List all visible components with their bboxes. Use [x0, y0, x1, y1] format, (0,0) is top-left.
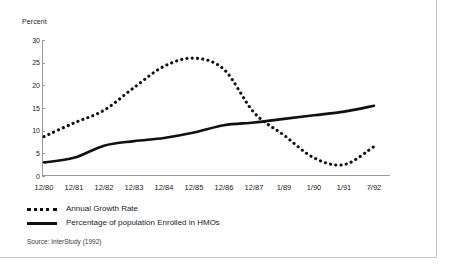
- x-tick-label: 12/81: [65, 183, 84, 192]
- x-tick-label: 1/89: [277, 183, 292, 192]
- y-tick-label: 15: [2, 105, 40, 112]
- y-tick-label: 10: [2, 127, 40, 134]
- x-tick-label: 1/90: [307, 183, 322, 192]
- x-tick-label: 12/84: [155, 183, 174, 192]
- x-tick-label: 12/87: [245, 183, 264, 192]
- x-tick-label: 12/85: [185, 183, 204, 192]
- legend-label-annual-growth-rate: Annual Growth Rate: [66, 204, 138, 214]
- solid-line-swatch-icon: [27, 218, 57, 228]
- legend-label-percentage-enrolled: Percentage of population Enrolled in HMO…: [66, 218, 220, 228]
- x-tick-label: 7/92: [367, 183, 382, 192]
- legend-item-annual-growth-rate: Annual Growth Rate: [27, 202, 367, 216]
- x-tick-label: 12/82: [95, 183, 114, 192]
- x-axis-tick-labels: 12/8012/8112/8212/8312/8412/8512/8612/87…: [0, 183, 437, 197]
- y-tick-label: 5: [2, 150, 40, 157]
- x-tick-label: 12/80: [35, 183, 54, 192]
- legend-item-percentage-enrolled: Percentage of population Enrolled in HMO…: [27, 216, 367, 230]
- x-tick-label: 12/86: [215, 183, 234, 192]
- chart-plot: [42, 40, 390, 176]
- y-tick-label: 30: [2, 37, 40, 44]
- y-tick-label: 20: [2, 82, 40, 89]
- y-tick-label: 0: [2, 173, 40, 180]
- x-tick-label: 1/91: [337, 183, 352, 192]
- series-line-2: [44, 106, 374, 163]
- x-tick-label: 12/83: [125, 183, 144, 192]
- chart-legend: Annual Growth Rate Percentage of populat…: [27, 202, 367, 230]
- y-tick-mark: [42, 176, 45, 177]
- y-tick-label: 25: [2, 59, 40, 66]
- source-note: Source: InterStudy (1992): [27, 238, 101, 246]
- figure-frame: Percent 051015202530 12/8012/8112/8212/8…: [0, 0, 437, 258]
- dotted-line-swatch-icon: [27, 204, 57, 214]
